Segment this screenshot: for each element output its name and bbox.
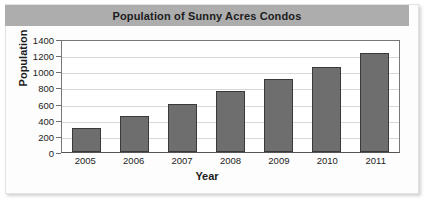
plot-area (61, 40, 400, 153)
bar-2007 (168, 104, 197, 152)
bar-slot (351, 41, 399, 152)
bar-series (62, 41, 399, 152)
y-axis-tick-label: 800 (38, 83, 54, 94)
x-axis-tick-label: 2005 (61, 155, 109, 166)
bar-slot (110, 41, 158, 152)
y-axis-tick-label: 1000 (33, 67, 54, 78)
bar-2005 (72, 128, 101, 152)
y-axis-tick-mark (56, 153, 61, 154)
x-axis-tick-label: 2007 (158, 155, 206, 166)
bar-2010 (312, 67, 341, 152)
y-axis-tick-label: 0 (49, 148, 54, 159)
bar-2011 (360, 53, 389, 152)
x-axis-tick-label: 2011 (352, 155, 400, 166)
bar-2009 (264, 79, 293, 152)
bar-slot (206, 41, 254, 152)
x-axis-tick-label: 2010 (303, 155, 351, 166)
y-axis-tick-label: 200 (38, 131, 54, 142)
y-axis-tick-labels: 0200400600800100012001400 (0, 40, 54, 153)
x-axis-label: Year (0, 170, 414, 182)
x-axis-tick-labels: 2005200620072008200920102011 (61, 155, 400, 166)
x-axis-tick-label: 2008 (206, 155, 254, 166)
x-axis-tick-label: 2009 (255, 155, 303, 166)
bar-2008 (216, 91, 245, 152)
bar-slot (158, 41, 206, 152)
x-axis-tick-label: 2006 (109, 155, 157, 166)
bar-2006 (120, 116, 149, 152)
bar-slot (303, 41, 351, 152)
y-axis-tick-label: 600 (38, 99, 54, 110)
y-axis-tick-label: 1400 (33, 35, 54, 46)
chart-figure: Population of Sunny Acres Condos Populat… (0, 0, 427, 202)
y-axis-tick-label: 400 (38, 115, 54, 126)
bar-slot (62, 41, 110, 152)
chart-title: Population of Sunny Acres Condos (113, 10, 302, 22)
y-axis-tick-label: 1200 (33, 51, 54, 62)
chart-title-band: Population of Sunny Acres Condos (5, 5, 409, 26)
bar-slot (255, 41, 303, 152)
